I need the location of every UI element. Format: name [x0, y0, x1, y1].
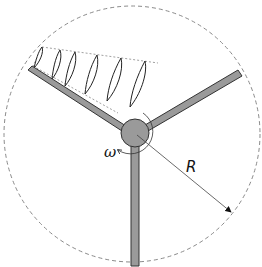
angular-velocity-label: ω — [104, 145, 116, 160]
blade-lower — [131, 146, 139, 266]
hub — [121, 119, 149, 147]
radius-label: R — [186, 160, 196, 175]
radius-arrow — [137, 135, 231, 212]
blade-right — [145, 70, 242, 131]
turbine-drawing — [0, 0, 262, 267]
blade-left — [28, 66, 126, 131]
airfoil-sections — [34, 47, 146, 107]
wind-turbine-diagram: ω R — [0, 0, 262, 267]
